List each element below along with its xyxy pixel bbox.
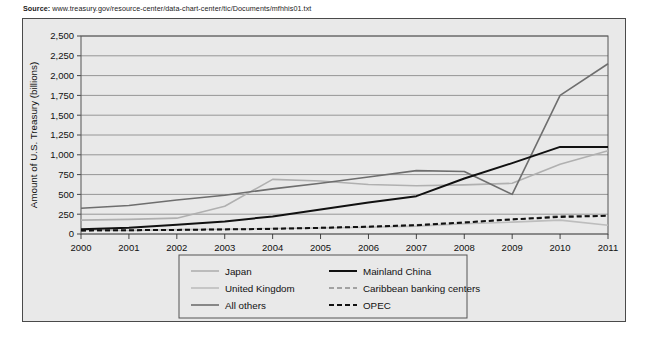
x-axis-tick-label: 2008 [454, 242, 475, 253]
legend: JapanUnited KingdomAll othersMainland Ch… [179, 255, 480, 318]
y-axis-tick-label: 250 [58, 209, 74, 220]
legend-label-all-others: All others [225, 300, 266, 311]
y-axis-tick-label: 1,500 [50, 110, 74, 121]
figure-frame: 02505007501,0001,2501,5001,7502,0002,250… [22, 18, 626, 322]
x-axis: 2000200120022003200420052006200720082009… [70, 234, 618, 253]
legend-label-caribbean-banking-centers: Caribbean banking centers [363, 283, 480, 294]
source-url: www.treasury.gov/resource-center/data-ch… [52, 4, 311, 13]
y-axis-title: Amount of U.S. Treasury (billions) [28, 62, 39, 208]
y-axis-tick-label: 1,250 [50, 129, 74, 140]
y-axis-tick-label: 0 [69, 228, 74, 239]
y-axis-tick-label: 2,000 [50, 70, 74, 81]
legend-label-japan: Japan [225, 266, 252, 277]
y-axis-tick-label: 1,750 [50, 90, 74, 101]
source-label: Source: [23, 4, 50, 13]
x-axis-tick-label: 2011 [598, 242, 618, 253]
x-axis-tick-label: 2005 [310, 242, 331, 253]
legend-label-mainland-china: Mainland China [363, 266, 432, 277]
y-axis-tick-label: 500 [58, 189, 74, 200]
y-axis-tick-label: 1,000 [50, 149, 74, 160]
y-axis-tick-label: 750 [58, 169, 74, 180]
x-axis-tick-label: 2003 [214, 242, 235, 253]
x-axis-tick-label: 2009 [502, 242, 523, 253]
legend-label-united-kingdom: United Kingdom [225, 283, 295, 294]
x-axis-tick-label: 2000 [70, 242, 91, 253]
x-axis-tick-label: 2007 [406, 242, 427, 253]
line-chart: 02505007501,0001,2501,5001,7502,0002,250… [23, 19, 627, 323]
x-axis-tick-label: 2001 [118, 242, 139, 253]
source-citation: Source: www.treasury.gov/resource-center… [23, 4, 311, 13]
y-axis-tick-label: 2,500 [50, 30, 74, 41]
x-axis-tick-label: 2002 [166, 242, 187, 253]
x-axis-tick-label: 2006 [358, 242, 379, 253]
x-axis-tick-label: 2004 [262, 242, 283, 253]
x-axis-tick-label: 2010 [550, 242, 571, 253]
y-axis-tick-label: 2,250 [50, 50, 74, 61]
legend-label-opec: OPEC [363, 300, 391, 311]
